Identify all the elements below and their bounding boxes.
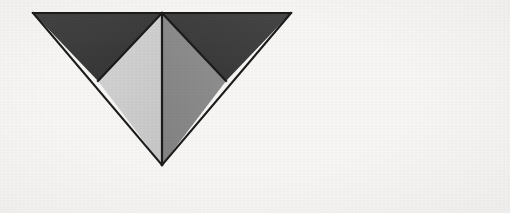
figure-canvas [0, 0, 510, 213]
inverted-triangle-figure [0, 0, 510, 213]
